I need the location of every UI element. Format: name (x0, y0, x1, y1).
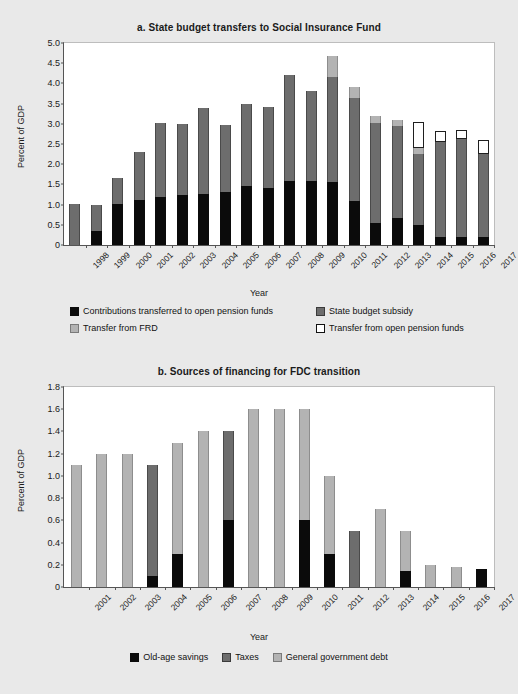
x-axis-tick-mark (322, 245, 323, 248)
x-axis-tick-mark (292, 587, 293, 590)
legend-item-contributions: Contributions transferred to open pensio… (70, 306, 273, 316)
bar-segment (241, 186, 252, 245)
x-axis-tick-mark (342, 587, 343, 590)
bar-segment (155, 197, 166, 245)
x-axis-tick-mark (430, 245, 431, 248)
x-axis-tick-label: 1998 (90, 250, 110, 270)
bar (274, 409, 285, 587)
bar (435, 131, 446, 245)
bar (122, 454, 133, 587)
x-axis-tick-mark (86, 245, 87, 248)
y-axis-tick-mark (61, 387, 64, 388)
x-axis-tick-mark (451, 245, 452, 248)
figure-page: a. State budget transfers to Social Insu… (0, 0, 518, 694)
y-axis-tick-label: 0.4 (20, 538, 60, 548)
x-axis-tick-mark (494, 587, 495, 590)
bar (400, 531, 411, 587)
y-axis-tick-label: 1.4 (20, 426, 60, 436)
x-axis-tick-label: 1999 (112, 250, 132, 270)
bar-segment (435, 237, 446, 245)
bar-segment (112, 204, 123, 245)
bar-segment (241, 104, 252, 186)
y-axis-tick-mark (61, 542, 64, 543)
bar-segment (413, 154, 424, 225)
chart-b-title: b. Sources of financing for FDC transiti… (0, 366, 518, 377)
bar-segment (400, 531, 411, 571)
y-axis-tick-mark (61, 184, 64, 185)
x-axis-tick-label: 2005 (241, 250, 261, 270)
x-axis-tick-mark (190, 587, 191, 590)
x-axis-tick-mark (241, 587, 242, 590)
bar-segment (299, 409, 310, 520)
x-axis-tick-label: 2013 (413, 250, 433, 270)
bar-segment (478, 154, 489, 238)
y-axis-tick-label: 4.5 (20, 58, 60, 68)
bar-segment (177, 195, 188, 245)
bar-segment (413, 225, 424, 245)
x-axis-tick-mark (165, 587, 166, 590)
bar (324, 476, 335, 587)
bar (198, 431, 209, 587)
bar-segment (306, 91, 317, 181)
bar-segment (263, 188, 274, 245)
bar (71, 465, 82, 587)
y-axis-tick-label: 0.8 (20, 493, 60, 503)
bar-segment (134, 200, 145, 245)
y-axis-tick-label: 1.0 (20, 200, 60, 210)
x-axis-tick-label: 2009 (327, 250, 347, 270)
x-axis-tick-mark (393, 587, 394, 590)
y-axis-tick-mark (61, 224, 64, 225)
x-axis-tick-mark (107, 245, 108, 248)
y-axis-tick-mark (61, 144, 64, 145)
legend-label: State budget subsidy (329, 306, 413, 316)
bar (349, 531, 360, 587)
bar (155, 123, 166, 245)
bar-segment (456, 237, 467, 245)
bar-segment (91, 205, 102, 231)
y-axis-tick-label: 0 (20, 582, 60, 592)
x-axis-tick-label: 2015 (456, 250, 476, 270)
x-axis-tick-mark (140, 587, 141, 590)
bar-segment (476, 569, 487, 587)
bar-segment (324, 554, 335, 587)
bar-segment (274, 409, 285, 587)
legend-label: Old-age savings (143, 652, 208, 662)
y-axis-tick-mark (61, 123, 64, 124)
chart-b-legend: Old-age savings Taxes General government… (0, 652, 518, 670)
bar-segment (198, 108, 209, 194)
x-axis-tick-mark (494, 245, 495, 248)
bar (248, 409, 259, 587)
bar (91, 205, 102, 245)
y-axis-tick-label: 1.5 (20, 179, 60, 189)
x-axis-tick-label: 2011 (370, 250, 390, 270)
bar-segment (299, 520, 310, 587)
y-axis-tick-label: 1.6 (20, 404, 60, 414)
bar-segment (451, 567, 462, 587)
chart-a-legend: Contributions transferred to open pensio… (0, 306, 518, 346)
bar-segment (223, 520, 234, 587)
bar (241, 104, 252, 245)
bar-segment (177, 124, 188, 195)
y-axis-tick-label: 4.0 (20, 78, 60, 88)
x-axis-tick-mark (368, 587, 369, 590)
bar-segment (456, 139, 467, 237)
legend-label: Transfer from open pension funds (329, 323, 464, 333)
x-axis-tick-label: 2007 (284, 250, 304, 270)
y-axis-tick-label: 2.0 (20, 159, 60, 169)
x-axis-tick-mark (172, 245, 173, 248)
bar-segment (413, 122, 424, 148)
bar-segment (327, 77, 338, 182)
legend-item-transfer-from-frd: Transfer from FRD (70, 323, 158, 333)
x-axis-tick-mark (365, 245, 366, 248)
bar-segment (324, 476, 335, 554)
bar (476, 569, 487, 587)
legend-label: Contributions transferred to open pensio… (83, 306, 273, 316)
bar-segment (435, 142, 446, 237)
y-axis-tick-label: 3.5 (20, 99, 60, 109)
y-axis-tick-label: 1.2 (20, 449, 60, 459)
x-axis-tick-mark (301, 245, 302, 248)
x-axis-tick-mark (129, 245, 130, 248)
x-axis-tick-mark (279, 245, 280, 248)
bar (223, 431, 234, 587)
bar-segment (392, 218, 403, 245)
